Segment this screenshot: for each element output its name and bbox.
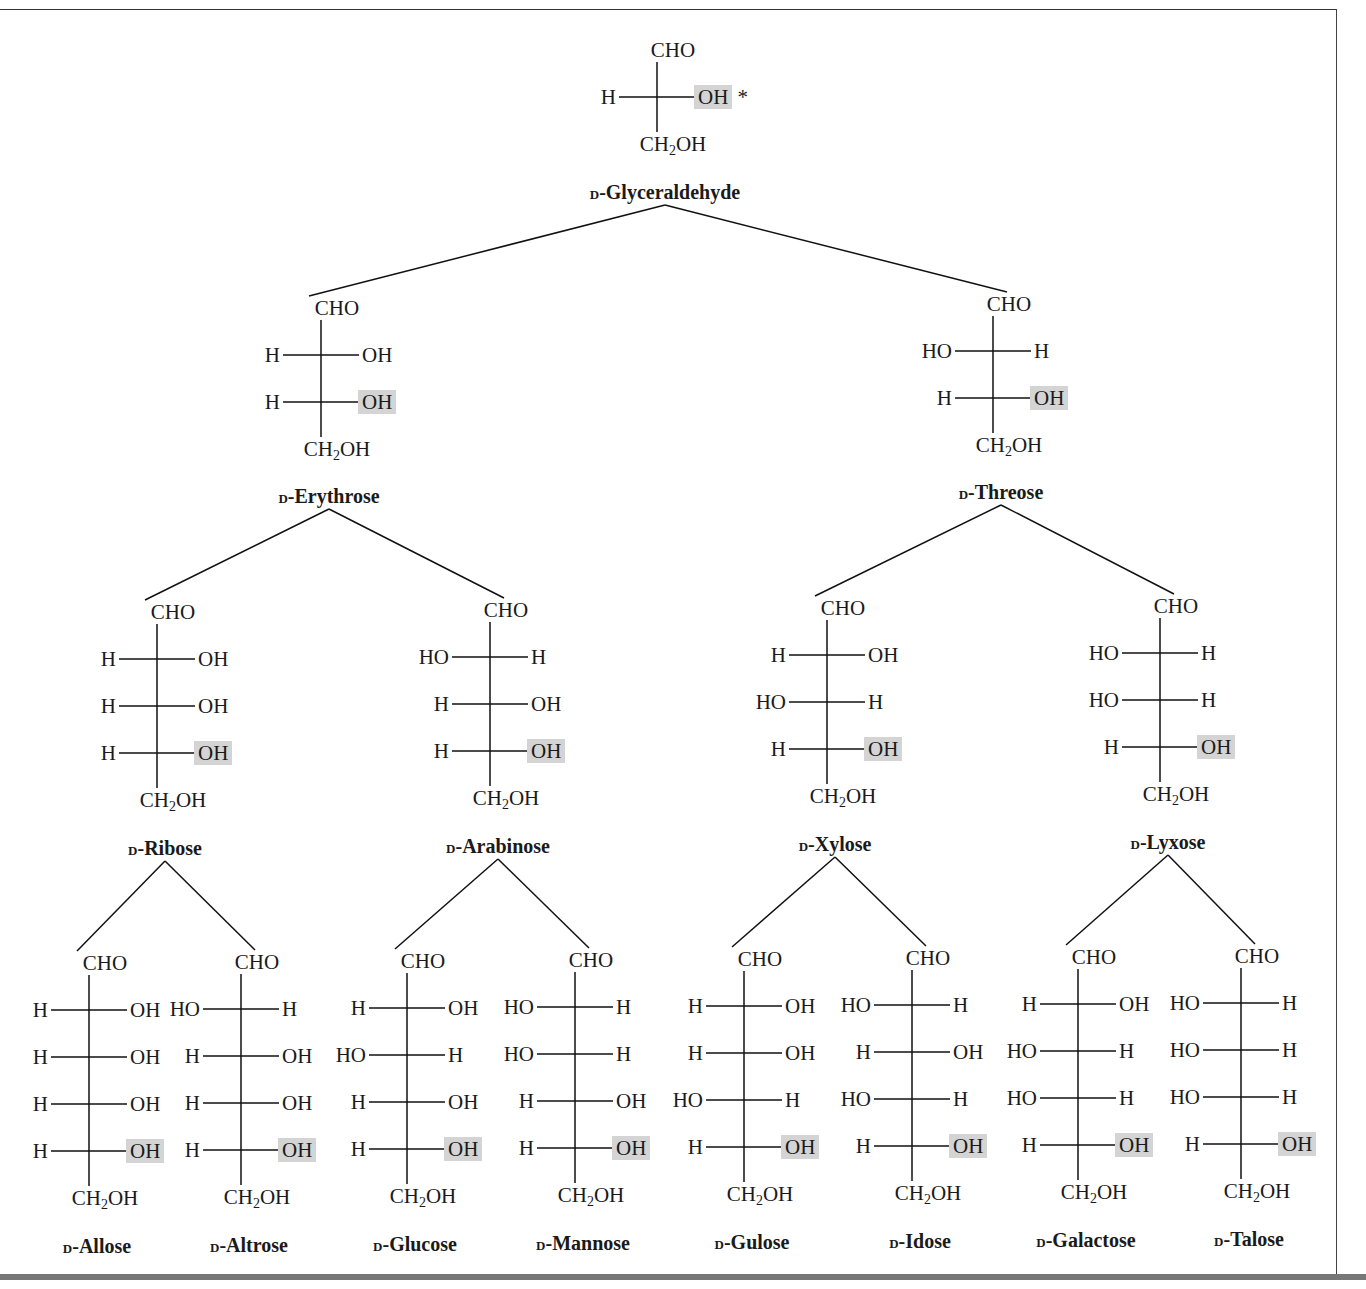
right-substituent: OH bbox=[531, 692, 561, 716]
hydroxymethyl-group-label: CH2OH bbox=[304, 437, 371, 461]
configurational-hydroxyl-highlighted: OH bbox=[194, 741, 232, 765]
aldehyde-group-label: CHO bbox=[987, 292, 1031, 316]
molecule-name-allose: d-Allose bbox=[63, 1235, 131, 1258]
right-substituent: H bbox=[1282, 1038, 1297, 1062]
hydroxymethyl-group-label: CH2OH bbox=[895, 1181, 962, 1205]
left-substituent: H bbox=[249, 739, 449, 763]
aldehyde-group-label: CHO bbox=[235, 950, 279, 974]
hydroxymethyl-group-label: CH2OH bbox=[810, 784, 877, 808]
left-substituent: H bbox=[80, 390, 280, 414]
hydroxymethyl-group-label: CH2OH bbox=[558, 1183, 625, 1207]
molecule-name-gulose: d-Gulose bbox=[715, 1231, 790, 1254]
hydroxymethyl-group-label: CH2OH bbox=[224, 1185, 291, 1209]
left-substituent: H bbox=[752, 386, 952, 410]
hydroxymethyl-group-label: CH2OH bbox=[976, 433, 1043, 457]
aldehyde-group-label: CHO bbox=[569, 948, 613, 972]
hydroxymethyl-group-label: CH2OH bbox=[640, 132, 707, 156]
aldehyde-group-label: CHO bbox=[1154, 594, 1198, 618]
aldehyde-group-label: CHO bbox=[1235, 944, 1279, 968]
left-substituent: H bbox=[0, 647, 116, 671]
molecule-name-erythrose: d-Erythrose bbox=[278, 485, 379, 508]
molecule-name-glucose: d-Glucose bbox=[373, 1233, 457, 1256]
configurational-hydroxyl-highlighted: OH * bbox=[694, 85, 748, 109]
aldehyde-group-label: CHO bbox=[738, 947, 782, 971]
left-substituent: HO bbox=[919, 688, 1119, 712]
molecule-name-altrose: d-Altrose bbox=[210, 1234, 288, 1257]
hydroxymethyl-group-label: CH2OH bbox=[1061, 1180, 1128, 1204]
left-substituent: HO bbox=[1000, 1038, 1200, 1062]
right-substituent: OH bbox=[198, 694, 228, 718]
left-substituent: HO bbox=[752, 339, 952, 363]
left-substituent: H bbox=[416, 85, 616, 109]
right-substituent: OH bbox=[362, 343, 392, 367]
hydroxymethyl-group-label: CH2OH bbox=[72, 1186, 139, 1210]
molecule-name-arabinose: d-Arabinose bbox=[446, 835, 550, 858]
configurational-hydroxyl-highlighted: OH bbox=[1197, 735, 1235, 759]
hydroxymethyl-group-label: CH2OH bbox=[140, 788, 207, 812]
left-substituent: H bbox=[249, 692, 449, 716]
hydroxymethyl-group-label: CH2OH bbox=[1224, 1179, 1291, 1203]
right-substituent: OH bbox=[868, 643, 898, 667]
hydroxymethyl-group-label: CH2OH bbox=[390, 1184, 457, 1208]
right-substituent: H bbox=[1282, 991, 1297, 1015]
molecule-name-ribose: d-Ribose bbox=[128, 837, 202, 860]
left-substituent: H bbox=[586, 643, 786, 667]
molecule-name-xylose: d-Xylose bbox=[799, 833, 872, 856]
left-substituent: H bbox=[586, 737, 786, 761]
right-substituent: OH bbox=[198, 647, 228, 671]
left-substituent: HO bbox=[586, 690, 786, 714]
aldehyde-group-label: CHO bbox=[484, 598, 528, 622]
aldehyde-group-label: CHO bbox=[906, 946, 950, 970]
aldehyde-group-label: CHO bbox=[151, 600, 195, 624]
right-substituent: H bbox=[868, 690, 883, 714]
molecule-name-talose: d-Talose bbox=[1214, 1228, 1284, 1251]
left-substituent: H bbox=[0, 741, 116, 765]
left-substituent: H bbox=[0, 694, 116, 718]
hydroxymethyl-group-label: CH2OH bbox=[473, 786, 540, 810]
left-substituent: HO bbox=[249, 645, 449, 669]
aldehyde-group-label: CHO bbox=[83, 951, 127, 975]
molecule-name-glyceraldehyde: d-Glyceraldehyde bbox=[590, 181, 740, 204]
hydroxymethyl-group-label: CH2OH bbox=[727, 1182, 794, 1206]
configurational-hydroxyl-highlighted: OH bbox=[1030, 386, 1068, 410]
configurational-hydroxyl-highlighted: OH bbox=[527, 739, 565, 763]
molecule-name-idose: d-Idose bbox=[889, 1230, 951, 1253]
molecule-name-galactose: d-Galactose bbox=[1036, 1229, 1135, 1252]
aldehyde-group-label: CHO bbox=[315, 296, 359, 320]
aldehyde-group-label: CHO bbox=[651, 38, 695, 62]
aldehyde-group-label: CHO bbox=[1072, 945, 1116, 969]
right-substituent: H bbox=[1201, 688, 1216, 712]
configurational-hydroxyl-highlighted: OH bbox=[358, 390, 396, 414]
right-substituent: H bbox=[1282, 1085, 1297, 1109]
right-substituent: H bbox=[531, 645, 546, 669]
left-substituent: H bbox=[919, 735, 1119, 759]
left-substituent: H bbox=[1000, 1132, 1200, 1156]
configurational-hydroxyl-highlighted: OH bbox=[1278, 1132, 1316, 1156]
left-substituent: HO bbox=[1000, 991, 1200, 1015]
molecule-name-mannose: d-Mannose bbox=[536, 1232, 630, 1255]
configurational-hydroxyl-highlighted: OH bbox=[864, 737, 902, 761]
molecule-name-threose: d-Threose bbox=[959, 481, 1044, 504]
aldehyde-group-label: CHO bbox=[821, 596, 865, 620]
left-substituent: HO bbox=[919, 641, 1119, 665]
aldehyde-group-label: CHO bbox=[401, 949, 445, 973]
molecule-name-lyxose: d-Lyxose bbox=[1131, 831, 1206, 854]
hydroxymethyl-group-label: CH2OH bbox=[1143, 782, 1210, 806]
right-substituent: H bbox=[1034, 339, 1049, 363]
right-substituent: H bbox=[1201, 641, 1216, 665]
left-substituent: H bbox=[80, 343, 280, 367]
left-substituent: HO bbox=[1000, 1085, 1200, 1109]
